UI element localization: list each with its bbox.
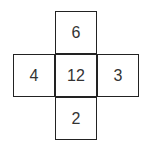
cell-center: 12 (55, 54, 97, 97)
cell-bottom: 2 (55, 97, 97, 140)
cell-left: 4 (13, 54, 55, 97)
cell-right: 3 (97, 54, 139, 97)
cell-top: 6 (55, 11, 97, 54)
